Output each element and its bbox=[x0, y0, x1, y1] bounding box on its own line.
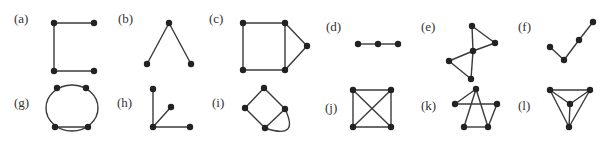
graph-label-h: (h) bbox=[117, 95, 132, 110]
edge bbox=[449, 51, 473, 61]
vertex-dot bbox=[85, 124, 91, 130]
vertex-dot bbox=[395, 41, 401, 47]
vertex-dot bbox=[485, 124, 491, 130]
edge bbox=[473, 43, 495, 51]
vertex-dot bbox=[547, 87, 553, 93]
graph-label-d: (d) bbox=[326, 19, 341, 34]
edge bbox=[488, 104, 497, 127]
vertex-dot bbox=[187, 124, 193, 130]
graph-a: (a) bbox=[14, 11, 97, 74]
graph-label-c: (c) bbox=[209, 11, 223, 26]
vertex-dot bbox=[547, 44, 553, 50]
edge bbox=[472, 26, 495, 43]
edge bbox=[245, 108, 265, 128]
vertex-dot bbox=[144, 61, 150, 67]
edge bbox=[264, 88, 285, 109]
graph-figure: (a)(b)(c)(d)(e)(f)(g)(h)(i)(j)(k)(l) bbox=[0, 0, 613, 145]
vertex-dot bbox=[452, 101, 458, 107]
edge bbox=[455, 89, 476, 104]
vertex-dot bbox=[350, 87, 356, 93]
edge bbox=[564, 40, 579, 60]
edge bbox=[147, 23, 169, 64]
edge bbox=[449, 61, 471, 79]
edge bbox=[153, 107, 171, 127]
vertex-dot bbox=[282, 20, 288, 26]
edge bbox=[285, 23, 307, 46]
vertex-dot bbox=[576, 37, 582, 43]
edge bbox=[569, 90, 590, 127]
edge bbox=[472, 26, 473, 51]
vertex-dot bbox=[91, 68, 97, 74]
vertex-dot bbox=[388, 124, 394, 130]
graph-i: (i) bbox=[212, 85, 290, 132]
graphs-container: (a)(b)(c)(d)(e)(f)(g)(h)(i)(j)(k)(l) bbox=[14, 11, 596, 131]
graph-label-j: (j) bbox=[325, 100, 337, 115]
vertex-dot bbox=[446, 58, 452, 64]
vertex-dot bbox=[240, 20, 246, 26]
vertex-dot bbox=[494, 101, 500, 107]
vertex-dot bbox=[166, 20, 172, 26]
vertex-dot bbox=[51, 68, 57, 74]
vertex-dot bbox=[52, 124, 58, 130]
edge bbox=[550, 90, 569, 127]
vertex-dot bbox=[261, 85, 267, 91]
vertex-dot bbox=[567, 101, 573, 107]
graph-c: (c) bbox=[209, 11, 310, 73]
vertex-dot bbox=[51, 20, 57, 26]
graph-f: (f) bbox=[518, 19, 596, 63]
graph-g: (g) bbox=[14, 85, 98, 131]
curved-edge bbox=[265, 109, 290, 131]
graph-l: (l) bbox=[518, 87, 593, 130]
vertex-dot bbox=[91, 20, 97, 26]
vertex-dot bbox=[150, 124, 156, 130]
graph-label-b: (b) bbox=[118, 11, 133, 26]
vertex-dot bbox=[282, 67, 288, 73]
vertex-dot bbox=[240, 67, 246, 73]
vertex-dot bbox=[242, 105, 248, 111]
edge bbox=[579, 22, 593, 40]
vertex-dot bbox=[590, 19, 596, 25]
graph-label-f: (f) bbox=[518, 19, 531, 34]
graph-d: (d) bbox=[326, 19, 401, 47]
edge bbox=[476, 89, 488, 127]
graph-k: (k) bbox=[421, 86, 500, 130]
edge bbox=[265, 109, 285, 128]
edge bbox=[245, 88, 264, 108]
graph-j: (j) bbox=[325, 87, 394, 130]
vertex-dot bbox=[473, 86, 479, 92]
graph-label-l: (l) bbox=[518, 98, 530, 113]
graph-label-e: (e) bbox=[421, 19, 435, 34]
edge bbox=[169, 23, 191, 64]
vertex-dot bbox=[54, 85, 60, 91]
vertex-dot bbox=[282, 106, 288, 112]
graph-b: (b) bbox=[118, 11, 194, 67]
vertex-dot bbox=[566, 124, 572, 130]
graph-label-g: (g) bbox=[14, 95, 29, 110]
vertex-dot bbox=[469, 23, 475, 29]
vertex-dot bbox=[262, 125, 268, 131]
edge bbox=[570, 90, 590, 104]
edge bbox=[471, 51, 473, 79]
graph-label-k: (k) bbox=[421, 98, 436, 113]
vertex-dot bbox=[188, 61, 194, 67]
vertex-dot bbox=[461, 124, 467, 130]
graph-label-i: (i) bbox=[212, 95, 224, 110]
vertex-dot bbox=[350, 124, 356, 130]
vertex-dot bbox=[83, 85, 89, 91]
vertex-dot bbox=[168, 104, 174, 110]
edge bbox=[569, 104, 570, 127]
vertex-dot bbox=[388, 87, 394, 93]
graph-h: (h) bbox=[117, 86, 193, 130]
edge bbox=[285, 46, 307, 70]
vertex-dot bbox=[375, 41, 381, 47]
vertex-dot bbox=[355, 41, 361, 47]
vertex-dot bbox=[561, 57, 567, 63]
vertex-dot bbox=[468, 76, 474, 82]
graph-e: (e) bbox=[421, 19, 498, 82]
vertex-dot bbox=[470, 48, 476, 54]
edge bbox=[464, 89, 476, 127]
vertex-dot bbox=[150, 86, 156, 92]
vertex-dot bbox=[492, 40, 498, 46]
graph-label-a: (a) bbox=[14, 11, 28, 26]
vertex-dot bbox=[304, 43, 310, 49]
